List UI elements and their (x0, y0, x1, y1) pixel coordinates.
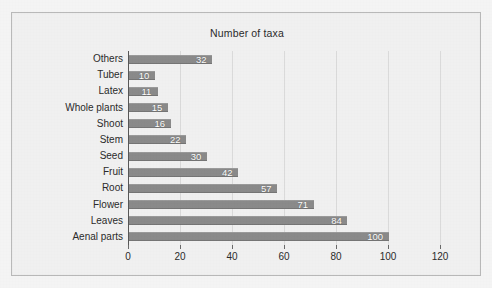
bar[interactable] (129, 184, 277, 193)
bar-value-label: 84 (331, 216, 342, 226)
bar-value-label: 10 (139, 71, 150, 81)
bar-value-label: 11 (141, 87, 151, 97)
value-axis-line (128, 51, 129, 245)
bar-row: Tuber10 (128, 67, 440, 83)
x-tick-label: 20 (160, 251, 200, 262)
bar-value-label: 42 (222, 168, 233, 178)
plot-area: 020406080100120 Others32Tuber10Latex11Wh… (128, 51, 440, 245)
chart-title: Number of taxa (12, 27, 482, 39)
bar-value-label: 57 (261, 184, 272, 194)
bar-row: Shoot16 (128, 116, 440, 132)
bar[interactable] (129, 232, 389, 241)
bar-row: Whole plants15 (128, 100, 440, 116)
category-label: Seed (13, 151, 123, 161)
x-tick-mark (232, 245, 233, 249)
x-tick-mark (128, 245, 129, 249)
category-label: Flower (13, 200, 123, 210)
x-tick-label: 100 (368, 251, 408, 262)
x-tick-label: 120 (420, 251, 460, 262)
bar[interactable] (129, 216, 347, 225)
category-label: Root (13, 183, 123, 193)
x-tick-mark (284, 245, 285, 249)
bar-row: Aenal parts100 (128, 229, 440, 245)
bar-value-label: 71 (297, 200, 308, 210)
category-label: Aenal parts (13, 232, 123, 242)
gridline (440, 51, 441, 245)
bar-value-label: 32 (196, 55, 207, 65)
x-tick-label: 60 (264, 251, 304, 262)
bar-row: Stem22 (128, 132, 440, 148)
x-tick-label: 0 (108, 251, 148, 262)
category-label: Shoot (13, 119, 123, 129)
x-tick-mark (388, 245, 389, 249)
category-label: Leaves (13, 216, 123, 226)
bar-value-label: 30 (191, 152, 202, 162)
category-label: Tuber (13, 70, 123, 80)
bar-value-label: 22 (170, 135, 181, 145)
bar-row: Flower71 (128, 197, 440, 213)
x-tick-mark (336, 245, 337, 249)
category-label: Whole plants (13, 103, 123, 113)
bar-row: Root57 (128, 180, 440, 196)
bar-value-label: 16 (154, 119, 165, 129)
bar-value-label: 15 (152, 103, 163, 113)
bar-row: Others32 (128, 51, 440, 67)
x-tick-label: 80 (316, 251, 356, 262)
bar-row: Fruit42 (128, 164, 440, 180)
bar-row: Seed30 (128, 148, 440, 164)
bar-row: Latex11 (128, 83, 440, 99)
x-tick-mark (180, 245, 181, 249)
category-label: Latex (13, 86, 123, 96)
bar-value-label: 100 (367, 232, 383, 242)
category-label: Stem (13, 135, 123, 145)
chart-figure: Number of taxa 020406080100120 Others32T… (0, 0, 492, 288)
bar-row: Leaves84 (128, 213, 440, 229)
x-tick-mark (440, 245, 441, 249)
category-label: Fruit (13, 167, 123, 177)
x-tick-label: 40 (212, 251, 252, 262)
chart-frame: Number of taxa 020406080100120 Others32T… (11, 12, 481, 276)
bar[interactable] (129, 200, 314, 209)
category-label: Others (13, 54, 123, 64)
